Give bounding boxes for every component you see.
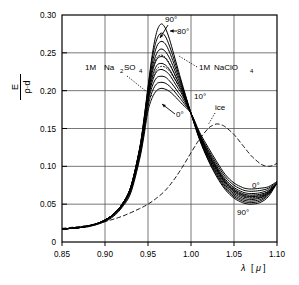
x-axis-unit-bracket-close: ] — [263, 263, 266, 273]
x-tick-label: 1.05 — [226, 250, 242, 259]
y-tick-label: 0.30 — [40, 11, 56, 20]
x-tick-label: 0.85 — [54, 250, 70, 259]
annotation-80-top-label: 80° — [177, 27, 189, 36]
absorption-spectrum-chart: 0.850.900.951.001.051.10 00.050.100.150.… — [0, 0, 299, 285]
annotation-90deg-bottom: 90° — [237, 208, 249, 217]
annotation-ice: ice — [215, 103, 226, 112]
annotation-0deg-left-label: 0° — [176, 110, 184, 119]
chart-figure: 0.850.900.951.001.051.10 00.050.100.150.… — [0, 0, 299, 285]
x-tick-label: 1.00 — [183, 250, 199, 259]
x-tick-label: 0.90 — [97, 250, 113, 259]
x-tick-label: 0.95 — [140, 250, 156, 259]
annotation-na2so4-mid: SO — [124, 63, 136, 72]
x-tick-label: 1.10 — [269, 250, 285, 259]
y-tick-label: 0.15 — [40, 125, 56, 134]
y-axis-numerator: E — [10, 84, 20, 90]
annotation-90-top-label: 90° — [165, 15, 177, 24]
annotation-naclo4-prefix: 1M — [199, 63, 210, 72]
annotation-na2so4-main: Na — [104, 63, 115, 72]
y-tick-label: 0.20 — [40, 87, 56, 96]
x-axis-lambda-symbol: λ — [240, 263, 245, 273]
annotation-10deg-label: 10° — [194, 92, 206, 101]
annotation-0deg-left: 0° — [176, 110, 184, 119]
annotation-ice-label: ice — [215, 103, 226, 112]
annotation-10deg: 10° — [194, 92, 206, 101]
annotation-90-top: 90° — [165, 15, 177, 24]
annotation-0deg-right-label: 0° — [252, 181, 260, 190]
annotation-0deg-right: 0° — [252, 181, 260, 190]
x-axis-unit-mu: μ — [255, 263, 261, 273]
y-tick-label: 0.05 — [40, 200, 56, 209]
annotation-na2so4-prefix: 1M — [85, 63, 96, 72]
y-axis-denominator: ρ·d — [22, 80, 32, 93]
annotation-naclo4-main: NaClO — [214, 63, 238, 72]
annotation-90deg-bottom-label: 90° — [237, 208, 249, 217]
annotation-80-top: 80° — [177, 27, 189, 36]
y-tick-label: 0.10 — [40, 162, 56, 171]
y-tick-label: 0.25 — [40, 49, 56, 58]
y-tick-label: 0 — [51, 238, 56, 247]
